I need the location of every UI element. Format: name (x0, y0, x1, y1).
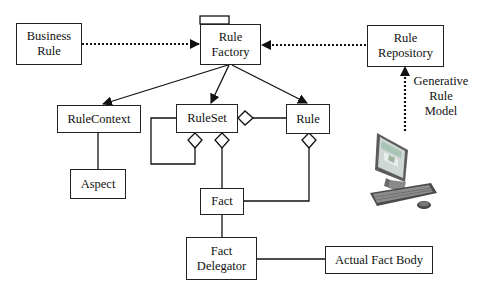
rule-factory-label: Rule Factory (211, 30, 249, 60)
fact-box: Fact (200, 188, 244, 215)
rule-repository-label: Rule Repository (378, 31, 433, 61)
edge-factory-to-rulecontext (103, 65, 228, 104)
diagram-canvas: Business Rule Rule Factory Rule Reposito… (0, 0, 479, 294)
aggregation-diamond-rule-fact (302, 133, 316, 148)
fact-delegator-box: Fact Delegator (186, 237, 257, 280)
ruleset-label: RuleSet (187, 111, 227, 126)
actual-fact-body-box: Actual Fact Body (325, 246, 433, 274)
aggregation-diamond-ruleset-rule (238, 111, 253, 125)
edge-factory-to-rule (232, 65, 307, 103)
aspect-label: Aspect (81, 177, 116, 192)
rule-box: Rule (286, 104, 330, 134)
aspect-box: Aspect (70, 169, 126, 199)
generative-rule-model-label: Generative Rule Model (409, 74, 473, 119)
rule-factory-box: Rule Factory (200, 24, 261, 65)
fact-delegator-label: Fact Delegator (197, 244, 246, 274)
ruleset-box: RuleSet (176, 104, 238, 133)
rule-context-box: RuleContext (57, 105, 141, 133)
rule-factory-package-tab (200, 16, 229, 24)
actual-fact-body-label: Actual Fact Body (335, 253, 423, 268)
aggregation-diamond-ruleset-self (188, 133, 202, 148)
edge-factory-to-ruleset (211, 65, 229, 103)
aggregation-diamond-ruleset-fact (215, 133, 229, 148)
edge-rule-to-fact (244, 148, 309, 201)
rule-label: Rule (296, 112, 320, 127)
rule-repository-box: Rule Repository (367, 25, 444, 67)
fact-label: Fact (211, 194, 233, 209)
rule-context-label: RuleContext (67, 112, 130, 127)
business-rule-label: Business Rule (27, 29, 71, 59)
business-rule-box: Business Rule (16, 23, 82, 65)
desktop-computer-icon (370, 133, 437, 209)
